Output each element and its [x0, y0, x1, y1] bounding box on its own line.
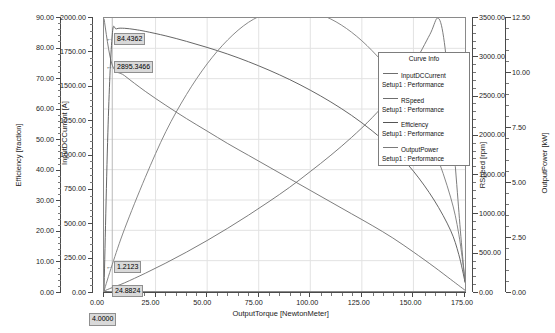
axis-minortick-efficiency	[58, 194, 61, 195]
axis-ticklabel-speed: 2500.00	[479, 91, 505, 100]
axis-minortick-power	[506, 281, 509, 282]
axis-minortick-speed	[473, 80, 476, 81]
axis-minortick-current	[90, 251, 93, 252]
axis-ticklabel-speed: 500.00	[479, 248, 501, 257]
axis-minortick-power	[506, 61, 509, 62]
axis-minortick-current	[90, 72, 93, 73]
legend-line-swatch	[383, 147, 398, 148]
axis-minortick-power	[506, 83, 509, 84]
legend-entry-outputpower[interactable]: OutputPowerSetup1 : Performance	[382, 138, 466, 163]
axis-tick-power	[506, 17, 511, 18]
axis-minortick-efficiency	[58, 249, 61, 250]
power-marker[interactable]: 1.2123	[114, 261, 141, 273]
axis-minortick-efficiency	[58, 96, 61, 97]
axis-tick-speed	[473, 56, 478, 57]
axis-minortick-current	[90, 285, 93, 286]
legend-line-swatch	[383, 98, 398, 99]
axis-ticklabel-current: 1500.00	[44, 81, 86, 90]
axis-minortick-speed	[473, 276, 476, 277]
axis-ticklabel-speed: 2000.00	[479, 130, 505, 139]
speed-marker[interactable]: 2895.3466	[114, 61, 153, 73]
axis-minortick-x	[373, 293, 374, 296]
axis-minortick-efficiency	[58, 41, 61, 42]
axis-tick-efficiency	[56, 78, 61, 79]
axis-ticklabel-x: 100.00	[296, 298, 318, 307]
axis-ticklabel-x: 175.00	[451, 298, 473, 307]
axis-minortick-speed	[473, 119, 476, 120]
axis-minortick-x	[331, 293, 332, 296]
axis-tick-power	[506, 182, 511, 183]
axis-minortick-current	[90, 58, 93, 59]
axis-minortick-current	[90, 106, 93, 107]
axis-minortick-speed	[473, 103, 476, 104]
axis-ticklabel-speed: 3500.00	[479, 13, 505, 22]
axis-minortick-current	[90, 134, 93, 135]
axis-minortick-x	[196, 293, 197, 296]
axis-minortick-x	[290, 293, 291, 296]
axis-ticklabel-speed: 0.00	[479, 288, 493, 297]
axis-minortick-current	[90, 230, 93, 231]
axis-minortick-x	[425, 293, 426, 296]
axis-minortick-x	[404, 293, 405, 296]
axis-minortick-power	[506, 171, 509, 172]
axis-minortick-x	[227, 293, 228, 296]
axis-tick-speed	[473, 135, 478, 136]
legend-series-name: RSpeed	[401, 97, 424, 104]
axis-minortick-efficiency	[58, 35, 61, 36]
annotation-arrow: ←	[106, 34, 113, 43]
legend-series-name: OutputPower	[401, 146, 438, 153]
axis-minortick-current	[90, 210, 93, 211]
axis-minortick-speed	[473, 25, 476, 26]
axis-minortick-x	[321, 293, 322, 296]
legend-line-swatch	[383, 73, 398, 74]
axis-title-efficiency: Efficiency [fraction]	[14, 123, 23, 186]
axis-minortick-speed	[473, 245, 476, 246]
axis-minortick-current	[90, 203, 93, 204]
axis-minortick-current	[90, 38, 93, 39]
axis-minortick-speed	[473, 151, 476, 152]
axis-minortick-efficiency	[58, 274, 61, 275]
axis-minortick-efficiency	[58, 280, 61, 281]
cursor-x-marker[interactable]: 4.0000	[89, 313, 116, 326]
axis-tick-speed	[473, 96, 478, 97]
efficiency-marker[interactable]: 84.4362	[114, 33, 145, 45]
axis-minortick-power	[506, 160, 509, 161]
axis-minortick-x	[144, 293, 145, 296]
axis-minortick-speed	[473, 261, 476, 262]
legend-entry-inputdccurrent[interactable]: InputDCCurrentSetup1 : Performance	[382, 64, 466, 89]
axis-minortick-current	[90, 161, 93, 162]
axis-minortick-speed	[473, 88, 476, 89]
axis-minortick-x	[165, 293, 166, 296]
axis-minortick-power	[506, 270, 509, 271]
axis-minortick-efficiency	[58, 206, 61, 207]
legend-entry-efficiency[interactable]: EfficiencySetup1 : Performance	[382, 113, 466, 138]
axis-minortick-current	[90, 265, 93, 266]
axis-minortick-efficiency	[58, 176, 61, 177]
axis-minortick-speed	[473, 111, 476, 112]
axis-minortick-speed	[473, 284, 476, 285]
current-marker[interactable]: 24.8824	[112, 285, 143, 297]
axis-ticklabel-power: 0.00	[512, 288, 526, 297]
axis-ticklabel-x: 50.00	[193, 298, 211, 307]
axis-minortick-efficiency	[58, 72, 61, 73]
axis-tick-current	[88, 86, 93, 87]
axis-tick-x	[206, 293, 207, 297]
axis-minortick-power	[506, 248, 509, 249]
annotation-arrow: ←	[104, 286, 111, 295]
axis-ticklabel-power: 7.50	[512, 123, 526, 132]
legend-rows: InputDCCurrentSetup1 : PerformanceRSpeed…	[382, 64, 466, 162]
legend-box[interactable]: Curve Info InputDCCurrentSetup1 : Perfor…	[378, 52, 470, 166]
axis-ticklabel-x: 150.00	[399, 298, 421, 307]
axis-minortick-x	[352, 293, 353, 296]
legend-entry-rspeed[interactable]: RSpeedSetup1 : Performance	[382, 89, 466, 114]
axis-ticklabel-power: 12.50	[512, 13, 530, 22]
axis-spine-speed	[472, 17, 473, 292]
axis-minortick-x	[300, 293, 301, 296]
legend-setup-label: Setup1 : Performance	[382, 155, 466, 163]
legend-setup-label: Setup1 : Performance	[382, 81, 466, 89]
axis-ticklabel-x: 25.00	[142, 298, 160, 307]
axis-tick-power	[506, 237, 511, 238]
axis-tick-current	[88, 292, 93, 293]
axis-tick-current	[88, 17, 93, 18]
axis-minortick-current	[90, 271, 93, 272]
